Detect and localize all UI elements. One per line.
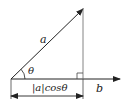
angle-theta-label: θ	[28, 66, 34, 76]
angle-arc	[21, 69, 25, 79]
vector-a-label: a	[40, 34, 47, 45]
vector-a-arrow	[11, 9, 83, 79]
projection-label: |a|cosθ	[32, 83, 67, 93]
vector-b-label: b	[96, 83, 103, 94]
right-angle-marker	[77, 73, 83, 79]
